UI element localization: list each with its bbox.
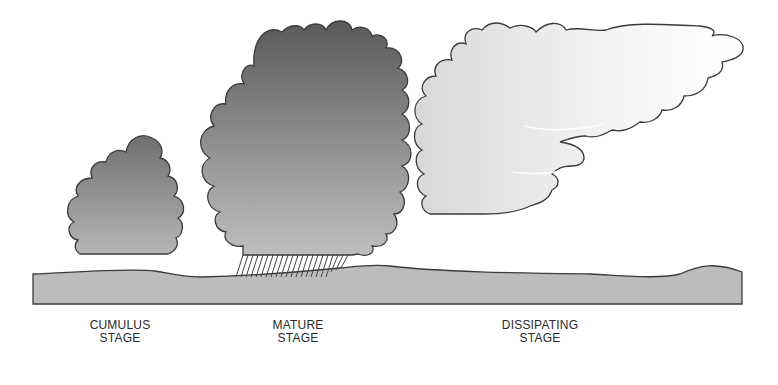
ground: [33, 265, 742, 304]
label-mature-stage: MATURE STAGE: [248, 319, 348, 345]
label-cumulus-stage: CUMULUS STAGE: [70, 319, 170, 345]
mature-cloud: [201, 21, 411, 255]
label-cumulus-line2: STAGE: [70, 332, 170, 345]
label-dissipating-line2: STAGE: [480, 332, 600, 345]
dissipating-cloud: [415, 23, 744, 214]
label-mature-line2: STAGE: [248, 332, 348, 345]
cumulus-cloud: [68, 136, 184, 254]
label-dissipating-stage: DISSIPATING STAGE: [480, 319, 600, 345]
